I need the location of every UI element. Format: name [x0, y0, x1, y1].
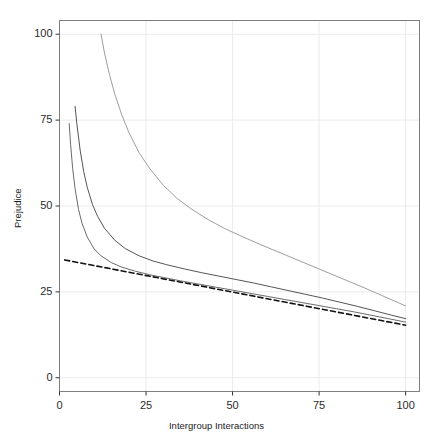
grid-lines	[60, 21, 420, 392]
y-tick-label: 100	[34, 27, 52, 39]
y-tick-label: 50	[40, 199, 52, 211]
chart-container: Prejudice Intergroup Interactions 025507…	[0, 0, 433, 441]
plot-area	[0, 0, 433, 441]
series-line-curve-2	[75, 106, 406, 318]
y-tick-label: 0	[46, 371, 52, 383]
data-series	[65, 34, 406, 325]
y-tick-label: 25	[40, 285, 52, 297]
y-axis-title: Prejudice	[12, 188, 23, 228]
x-tick-label: 0	[40, 399, 80, 411]
series-line-curve-3	[101, 34, 406, 306]
tick-marks	[56, 34, 406, 395]
y-tick-label: 75	[40, 113, 52, 125]
x-tick-label: 25	[126, 399, 166, 411]
x-tick-label: 50	[213, 399, 253, 411]
x-axis-title: Intergroup Interactions	[0, 420, 433, 431]
series-line-dashed-line	[65, 260, 406, 325]
x-tick-label: 100	[386, 399, 426, 411]
x-tick-label: 75	[299, 399, 339, 411]
